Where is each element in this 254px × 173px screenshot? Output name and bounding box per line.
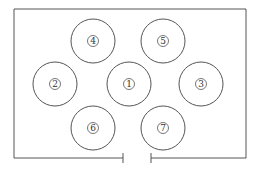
circle-node-4: 4: [71, 19, 115, 63]
circle-node-5: 5: [141, 19, 185, 63]
circle-label: 4: [90, 36, 96, 46]
diagram-canvas: 1234567: [0, 0, 254, 173]
circle-node-1: 1: [107, 62, 151, 106]
circle-node-2: 2: [33, 62, 77, 106]
circle-label: 7: [160, 123, 166, 133]
circle-node-3: 3: [179, 62, 223, 106]
circle-label: 5: [160, 36, 166, 46]
circle-node-6: 6: [71, 106, 115, 150]
circle-label: 6: [90, 123, 96, 133]
circle-label: 1: [126, 79, 132, 89]
circle-label: 2: [52, 79, 58, 89]
circle-node-7: 7: [141, 106, 185, 150]
circle-group: 1234567: [33, 19, 223, 150]
circle-label: 3: [198, 79, 204, 89]
